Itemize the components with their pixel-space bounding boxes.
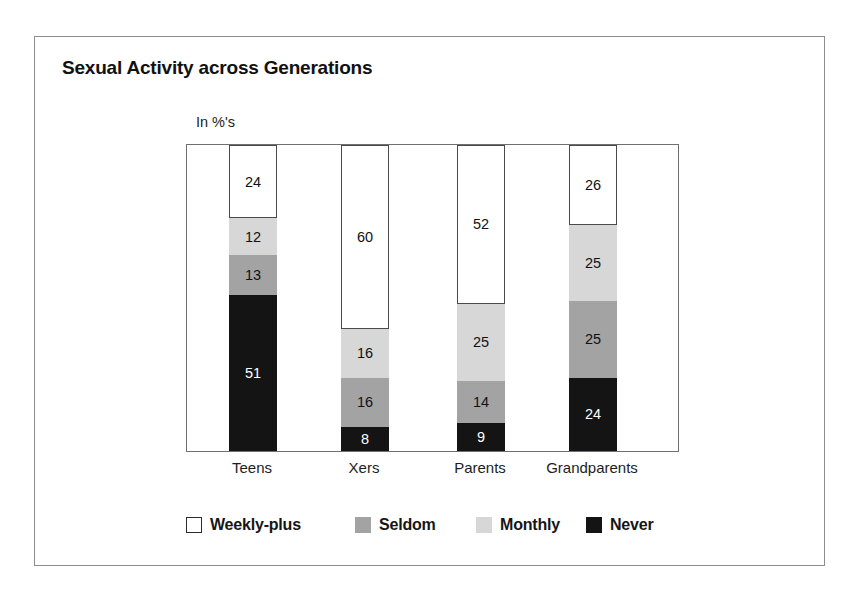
- bar-segment-value-label: 8: [361, 432, 369, 447]
- bar-segment-value-label: 13: [245, 268, 261, 283]
- bar-column: 6016168: [341, 145, 389, 451]
- bar-segment: 25: [569, 301, 617, 378]
- bar-segment: 24: [569, 378, 617, 451]
- bar-segment: 9: [457, 423, 505, 451]
- bar-segment-value-label: 51: [245, 366, 261, 381]
- legend-swatch-icon: [476, 517, 492, 533]
- legend-label: Monthly: [500, 516, 560, 534]
- bar-segment-value-label: 14: [473, 395, 489, 410]
- legend-swatch-icon: [186, 517, 202, 533]
- bar-segment: 25: [569, 225, 617, 302]
- bar-segment-value-label: 26: [585, 178, 601, 193]
- legend-item: Never: [586, 516, 653, 534]
- legend-swatch-icon: [586, 517, 602, 533]
- bar-segment-value-label: 25: [585, 332, 601, 347]
- bar-segment-value-label: 16: [357, 395, 373, 410]
- bar-segment: 25: [457, 304, 505, 381]
- bar-segment-value-label: 12: [245, 230, 261, 245]
- bar-column: 24121351: [229, 145, 277, 451]
- category-axis-label: Grandparents: [546, 459, 638, 476]
- bar-segment-value-label: 25: [585, 256, 601, 271]
- bar-segment: 51: [229, 295, 277, 451]
- chart-figure: Sexual Activity across Generations In %'…: [0, 0, 859, 594]
- bar-segment: 12: [229, 218, 277, 255]
- bar-segment-value-label: 52: [473, 217, 489, 232]
- bar-column: 5225149: [457, 145, 505, 451]
- chart-title: Sexual Activity across Generations: [62, 57, 372, 79]
- bar-segment: 13: [229, 255, 277, 295]
- bar-column: 26252524: [569, 145, 617, 451]
- category-axis-label: Teens: [232, 459, 272, 476]
- legend-item: Seldom: [355, 516, 436, 534]
- bar-segment-value-label: 16: [357, 346, 373, 361]
- bar-segment-value-label: 25: [473, 335, 489, 350]
- bar-segment: 14: [457, 381, 505, 424]
- category-axis: TeensXersParentsGrandparents: [186, 459, 679, 483]
- legend-item: Monthly: [476, 516, 560, 534]
- bar-segment: 16: [341, 378, 389, 427]
- legend-item: Weekly-plus: [186, 516, 301, 534]
- legend-label: Weekly-plus: [210, 516, 301, 534]
- bar-segment: 60: [341, 145, 389, 329]
- legend-label: Seldom: [379, 516, 436, 534]
- bar-segment: 24: [229, 145, 277, 218]
- category-axis-label: Parents: [454, 459, 506, 476]
- bar-segment: 8: [341, 427, 389, 451]
- chart-legend: Weekly-plusSeldomMonthlyNever: [186, 512, 686, 538]
- legend-swatch-icon: [355, 517, 371, 533]
- axis-unit-label: In %'s: [196, 114, 235, 130]
- bar-segment: 16: [341, 329, 389, 378]
- bar-segment-value-label: 24: [585, 407, 601, 422]
- bar-segment: 52: [457, 145, 505, 304]
- category-axis-label: Xers: [349, 459, 380, 476]
- bar-segment: 26: [569, 145, 617, 225]
- bar-segment-value-label: 9: [477, 430, 485, 445]
- legend-label: Never: [610, 516, 653, 534]
- bar-segment-value-label: 24: [245, 175, 261, 190]
- plot-area: 241213516016168522514926252524: [186, 144, 679, 452]
- bar-segment-value-label: 60: [357, 230, 373, 245]
